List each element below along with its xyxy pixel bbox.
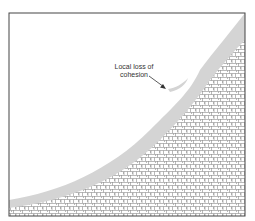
annotation-line1: Local loss of <box>104 63 164 71</box>
annotation-label: Local loss of cohesion <box>104 63 164 79</box>
annotation-line2: cohesion <box>104 71 164 79</box>
cohesion-loss-sliver <box>168 78 188 92</box>
slope-diagram <box>0 0 255 221</box>
